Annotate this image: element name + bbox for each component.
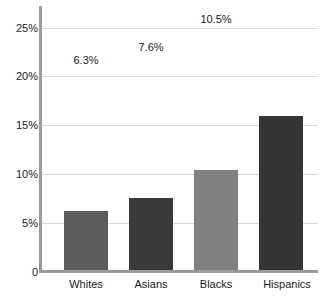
y-tick-20: 20% xyxy=(0,70,38,82)
y-tick-25: 25% xyxy=(0,22,38,34)
y-tick-15: 15% xyxy=(0,119,38,131)
bar-value-blacks: 10.5% xyxy=(194,13,238,25)
bar-blacks[interactable] xyxy=(194,170,238,272)
x-label-blacks: Blacks xyxy=(194,278,238,290)
bar-value-asians: 7.6% xyxy=(129,41,173,53)
bar-whites[interactable] xyxy=(64,211,108,272)
y-tick-5: 5% xyxy=(0,217,38,229)
x-label-asians: Asians xyxy=(129,278,173,290)
y-axis-line xyxy=(39,6,42,272)
bar-hispanics[interactable] xyxy=(259,116,303,272)
y-tick-0: 0 xyxy=(0,266,38,278)
x-label-whites: Whites xyxy=(64,278,108,290)
x-axis-line xyxy=(39,270,318,273)
x-label-hispanics: Hispanics xyxy=(255,278,319,290)
gridline-25 xyxy=(42,28,318,29)
gridline-20 xyxy=(42,76,318,77)
y-axis-ticks: 25% 20% 15% 10% 5% 0 xyxy=(0,0,38,308)
plot-area: 6.3% 7.6% 10.5% 16.0% xyxy=(42,8,318,272)
y-tick-10: 10% xyxy=(0,168,38,180)
bar-chart: 6.3% 7.6% 10.5% 16.0% 25% 20% 15% 10% 5%… xyxy=(0,0,334,308)
bar-value-whites: 6.3% xyxy=(64,54,108,66)
bar-asians[interactable] xyxy=(129,198,173,272)
